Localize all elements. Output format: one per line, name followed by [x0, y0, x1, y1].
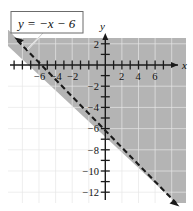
- equation-label: y = −x − 6: [16, 16, 76, 31]
- y-tick-label--4: −4: [88, 102, 100, 113]
- x-tick-label-4: 4: [136, 71, 142, 82]
- x-tick-label-6: 6: [152, 71, 157, 82]
- x-axis-label: x: [181, 59, 187, 71]
- y-tick-label--12: −12: [83, 187, 99, 198]
- x-tick-label-2: 2: [119, 71, 124, 82]
- graph-figure: y = −x − 6 x y −6 −4 −2 2 4 6 2 −2 −4 −6…: [0, 0, 193, 211]
- y-tick-label-2: 2: [94, 39, 99, 50]
- y-tick-label--6: −6: [88, 123, 99, 134]
- x-tick-label--2: −2: [67, 71, 78, 82]
- coordinate-plane: y = −x − 6 x y −6 −4 −2 2 4 6 2 −2 −4 −6…: [0, 0, 193, 211]
- y-axis-label: y: [99, 20, 105, 32]
- y-tick-label--8: −8: [88, 145, 99, 156]
- x-tick-label--4: −4: [51, 71, 63, 82]
- x-tick-label--6: −6: [34, 71, 45, 82]
- y-tick-label--10: −10: [83, 166, 99, 177]
- y-tick-label--2: −2: [88, 81, 99, 92]
